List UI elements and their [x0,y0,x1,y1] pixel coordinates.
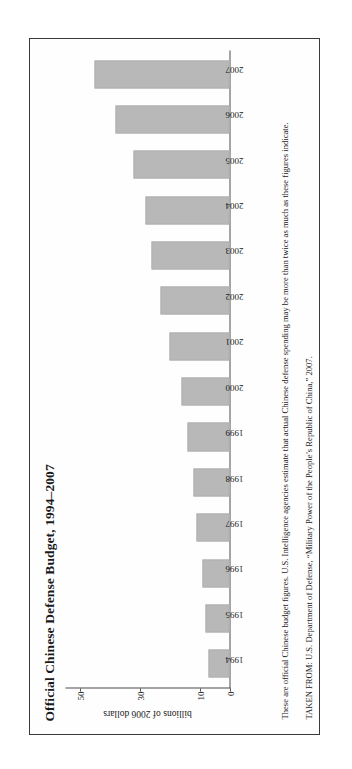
figure-frame: Official Chinese Defense Budget, 1994–20… [29,38,320,735]
x-label-cell: 1999 [230,414,262,459]
x-label-cell: 2006 [230,97,262,142]
x-label-cell: 1997 [230,505,262,550]
x-tick-label-1998: 1998 [225,473,243,483]
bar-cell [65,459,230,504]
bar-cell [65,368,230,413]
x-label-cell: 1998 [230,460,262,505]
x-label-cell: 2005 [230,142,262,187]
rotated-figure-stage: Official Chinese Defense Budget, 1994–20… [29,38,320,735]
x-tick-label-2004: 2004 [225,200,243,210]
x-tick-label-1995: 1995 [225,609,243,619]
bar-cell [65,278,230,323]
bar-cell [65,323,230,368]
x-label-cell: 2003 [230,233,262,278]
x-tick-label-2006: 2006 [225,109,243,119]
bar-2001 [169,332,229,360]
bar-cell [65,51,230,96]
x-label-cell: 2002 [230,278,262,323]
bar-cell [65,96,230,141]
plot-area [65,50,231,688]
bar-2004 [145,196,229,224]
y-tick-label: 0 [225,691,235,696]
bar-2002 [160,286,229,314]
x-label-cell: 1996 [230,551,262,596]
x-label-cell: 1994 [230,642,262,687]
x-tick-label-2003: 2003 [225,246,243,256]
y-axis-title: billions of 2006 dollars [65,706,231,721]
y-tick-label: 30 [135,691,145,700]
bar-cell [65,550,230,595]
x-label-cell: 2001 [230,324,262,369]
y-tick-label: 50 [75,691,85,700]
bar-2000 [181,377,229,405]
x-tick-label-2007: 2007 [225,64,243,74]
figure-content: Official Chinese Defense Budget, 1994–20… [29,38,320,735]
figure-notes: These are official Chinese budget figure… [278,54,314,719]
bar-cell [65,505,230,550]
x-tick-label-1999: 1999 [225,427,243,437]
x-label-cell: 2004 [230,187,262,232]
bar-cell [65,641,230,686]
x-tick-label-1994: 1994 [225,654,243,664]
x-label-cell: 2007 [230,51,262,96]
x-label-cell: 1995 [230,596,262,641]
bar-cell [65,187,230,232]
x-tick-label-1996: 1996 [225,563,243,573]
bar-cell [65,232,230,277]
figure-source: TAKEN FROM: U.S. Department of Defense, … [302,54,314,719]
bar-2006 [115,105,229,133]
x-tick-label-1997: 1997 [225,518,243,528]
bar-cell [65,142,230,187]
x-label-cell: 2000 [230,369,262,414]
bars-container [65,50,230,687]
x-tick-label-2002: 2002 [225,291,243,301]
bar-1998 [193,468,229,496]
x-axis-labels: 1994199519961997199819992000200120022003… [230,50,262,688]
bar-2007 [94,60,229,88]
bar-2003 [151,241,229,269]
bar-2005 [133,150,229,178]
y-axis-ticks: 0103050 [65,688,231,706]
x-tick-label-2005: 2005 [225,155,243,165]
bar-1997 [196,513,229,541]
figure-title: Official Chinese Defense Budget, 1994–20… [41,50,57,721]
bar-1999 [187,422,229,450]
plot-block: billions of 2006 dollars 0103050 [65,50,231,721]
figure-caption: These are official Chinese budget figure… [278,54,290,719]
bar-cell [65,595,230,640]
y-axis-title-label: billions of 2006 dollars [103,709,191,719]
x-tick-label-2001: 2001 [225,336,243,346]
x-tick-label-2000: 2000 [225,382,243,392]
bar-cell [65,414,230,459]
y-tick-label: 10 [195,691,205,700]
